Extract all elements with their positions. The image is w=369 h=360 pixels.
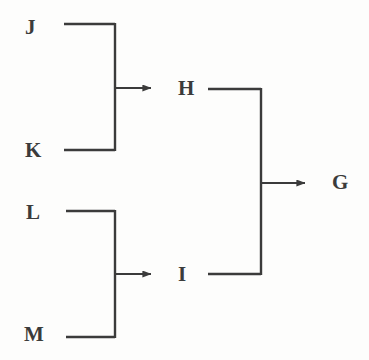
node-label-l: L bbox=[26, 202, 40, 223]
diagram-canvas: J K L M H I G bbox=[0, 0, 369, 360]
node-label-g: G bbox=[332, 172, 348, 193]
diagram-lines bbox=[0, 0, 369, 360]
node-label-h: H bbox=[178, 78, 194, 99]
node-label-j: J bbox=[25, 17, 36, 38]
node-label-m: M bbox=[24, 324, 44, 345]
node-label-k: K bbox=[25, 140, 41, 161]
node-label-i: I bbox=[178, 264, 186, 285]
